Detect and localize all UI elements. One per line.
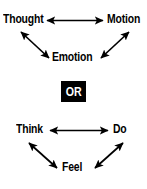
node-label-do: Do — [113, 122, 127, 135]
node-label-motion: Motion — [107, 12, 140, 25]
or-separator-box: OR — [61, 81, 86, 102]
arrow-think-feel — [29, 143, 57, 168]
node-label-thought: Thought — [3, 12, 43, 25]
arrow-emotion-motion — [101, 32, 129, 58]
or-separator-label: OR — [66, 85, 82, 98]
diagram-canvas: Thought Motion Emotion OR Think Do Feel — [0, 0, 147, 189]
arrow-thought-emotion — [21, 32, 49, 58]
node-label-think: Think — [16, 122, 43, 135]
arrow-feel-do — [95, 143, 123, 168]
node-label-emotion: Emotion — [52, 50, 92, 63]
node-label-feel: Feel — [62, 160, 82, 173]
